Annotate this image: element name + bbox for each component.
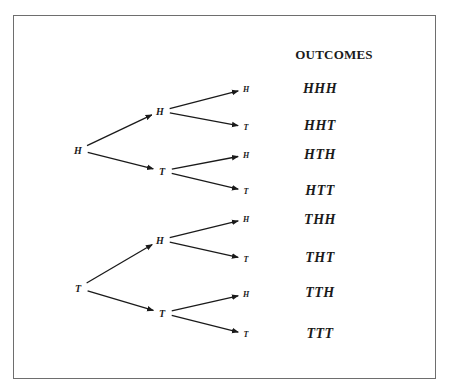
level1-node-h: H	[156, 106, 164, 117]
outcome-tth: TTH	[305, 285, 335, 301]
level2-node-h: H	[243, 151, 249, 160]
branch-arrow	[170, 242, 238, 257]
branch-arrow	[88, 152, 154, 168]
branch-arrow	[87, 245, 153, 283]
branch-arrow	[172, 315, 239, 332]
outcome-hht: HHT	[304, 118, 336, 134]
level2-node-t: T	[244, 123, 249, 132]
level1-node-h: H	[156, 235, 164, 246]
outcomes-heading: OUTCOMES	[295, 47, 372, 63]
branch-arrow	[172, 296, 238, 311]
outcome-ttt: TTT	[306, 326, 333, 342]
branch-arrow	[172, 173, 238, 189]
root-node-t: T	[75, 283, 81, 294]
outcome-tht: THT	[305, 250, 335, 266]
outcome-thh: THH	[304, 212, 336, 228]
branch-arrow	[170, 91, 239, 109]
level2-node-h: H	[243, 290, 249, 299]
level2-node-h: H	[243, 85, 249, 94]
branch-arrow	[170, 113, 238, 126]
branch-arrow	[170, 221, 239, 238]
branch-arrow	[87, 115, 152, 146]
root-node-h: H	[74, 145, 82, 156]
level2-node-h: H	[243, 215, 249, 224]
level1-node-t: T	[159, 166, 165, 177]
outcome-hth: HTH	[304, 147, 336, 163]
level2-node-t: T	[244, 187, 249, 196]
branch-arrow	[172, 156, 238, 169]
level1-node-t: T	[159, 308, 165, 319]
level2-node-t: T	[244, 330, 249, 339]
tree-diagram-lines	[0, 0, 450, 391]
outcome-hhh: HHH	[303, 81, 337, 97]
level2-node-t: T	[244, 255, 249, 264]
branch-arrow	[88, 291, 154, 311]
outcome-htt: HTT	[305, 183, 335, 199]
